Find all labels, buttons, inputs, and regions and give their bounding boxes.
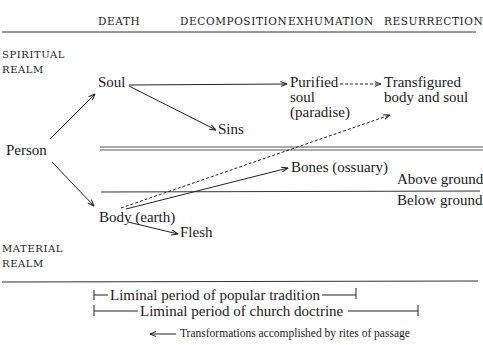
period-popular-tradition: Liminal period of popular tradition: [110, 287, 320, 303]
arrow-soul-sins: [129, 86, 216, 130]
arrow-soul-purified: [129, 84, 287, 85]
arrow-body-flesh: [128, 222, 178, 234]
ground-line: [101, 191, 480, 192]
legend-label: Transformations accomplished by rites of…: [180, 327, 410, 339]
period-church-doctrine: Liminal period of church doctrine: [140, 303, 343, 319]
arrow-body-bones: [126, 168, 288, 209]
arrow-body-transfigured: [121, 115, 390, 208]
bottom-rule: [2, 281, 478, 282]
arrow-person-body: [52, 162, 94, 206]
arrow-person-soul: [50, 94, 95, 139]
